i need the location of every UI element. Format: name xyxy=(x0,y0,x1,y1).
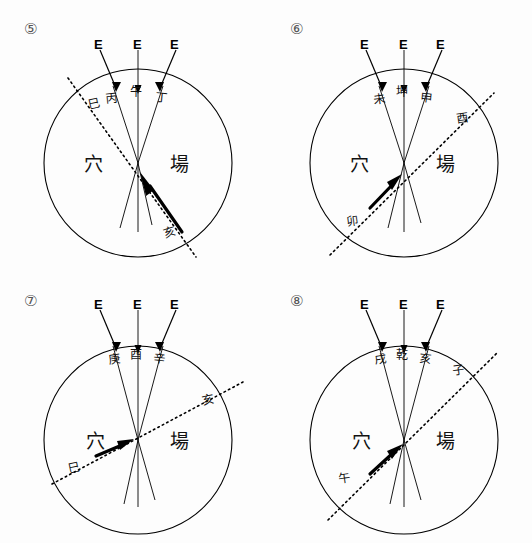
panel-8-rim-label-hai: 亥 xyxy=(418,352,431,365)
panel-7-dotted-near-label: 巳 xyxy=(67,461,81,475)
panel-5-beam-left-label: E xyxy=(94,38,103,51)
panel-7-ray-left-ext xyxy=(124,440,138,504)
panel-number-6: ⑥ xyxy=(290,22,303,37)
panel-8-dotted-far-label: 子 xyxy=(451,363,465,377)
panel-7-rim-label-you: 酉 xyxy=(130,349,142,361)
diagram-panel-7: ⑦ E E E 庚 酉 辛 穴 場 亥 巳 xyxy=(0,272,266,543)
panel-6-region-left: 穴 xyxy=(350,155,369,174)
panel-5-beam-center-label: E xyxy=(133,38,142,51)
panel-8-ray-right-ext xyxy=(404,440,421,500)
panel-7-rim-label-xin: 辛 xyxy=(152,352,165,365)
panel-8-beam-right-label: E xyxy=(436,298,445,311)
panel-8-beam-left-label: E xyxy=(360,298,369,311)
panel-7-drawing xyxy=(0,272,266,543)
panel-7-region-right: 場 xyxy=(170,432,189,451)
diagram-panel-8: ⑧ E E E 戌 乾 亥 穴 場 子 午 xyxy=(266,272,532,543)
panel-6-dotted-near-label: 卯 xyxy=(345,214,359,228)
panel-7-beam-right-label: E xyxy=(170,298,179,311)
panel-number-8: ⑧ xyxy=(290,294,303,309)
panel-8-dotted-near-label: 午 xyxy=(337,471,351,485)
panel-6-ray-right-ext xyxy=(404,163,421,223)
panel-5-rim-label-ding: 丁 xyxy=(154,91,167,104)
panel-5-rim-label-wu: 午 xyxy=(130,86,142,98)
panel-7-beam-center-label: E xyxy=(133,298,142,311)
panel-5-rim-label-bing: 丙 xyxy=(105,91,118,104)
panel-number-5: ⑤ xyxy=(24,22,37,37)
panel-6-beam-left-label: E xyxy=(360,38,369,51)
diagram-panel-6: ⑥ E E E 未 坤 申 穴 場 酉 卯 xyxy=(266,0,532,271)
panel-7-region-left: 穴 xyxy=(86,432,105,451)
panel-7-dotted-reference-line xyxy=(52,382,243,484)
panel-6-region-right: 場 xyxy=(436,155,455,174)
panel-5-direction-arrow xyxy=(140,172,182,232)
panel-number-7: ⑦ xyxy=(24,294,37,309)
panel-6-rim-label-shen: 申 xyxy=(419,91,432,104)
panel-6-rim-label-wei: 未 xyxy=(372,92,386,106)
panel-6-dotted-far-label: 酉 xyxy=(455,111,469,125)
panel-6-rim-label-kun: 坤 xyxy=(396,86,408,98)
panel-8-region-left: 穴 xyxy=(352,432,371,451)
panel-5-rim-label-si: 巳 xyxy=(87,97,101,111)
panel-6-beam-center-label: E xyxy=(399,38,408,51)
panel-8-rim-label-xu: 戌 xyxy=(373,352,387,366)
panel-8-beam-center-label: E xyxy=(399,298,408,311)
panel-8-region-right: 場 xyxy=(436,432,455,451)
panel-7-dotted-far-label: 亥 xyxy=(201,393,215,407)
diagram-panel-5: ⑤ E E E 巳 丙 午 丁 穴 場 亥 xyxy=(0,0,266,271)
panel-6-beam-right-label: E xyxy=(436,38,445,51)
panel-8-rim-label-qian: 乾 xyxy=(396,349,408,361)
figure-sheet: ⑤ E E E 巳 丙 午 丁 穴 場 亥 xyxy=(0,0,532,543)
panel-7-ray-right-ext xyxy=(138,440,155,500)
panel-7-rim-label-geng: 庚 xyxy=(107,352,121,366)
panel-7-beam-left-label: E xyxy=(94,298,103,311)
panel-8-direction-arrow xyxy=(370,444,403,474)
panel-5-region-right: 場 xyxy=(170,155,189,174)
panel-5-beam-right-label: E xyxy=(170,38,179,51)
panel-8-drawing xyxy=(266,272,532,543)
panel-5-region-left: 穴 xyxy=(84,155,103,174)
